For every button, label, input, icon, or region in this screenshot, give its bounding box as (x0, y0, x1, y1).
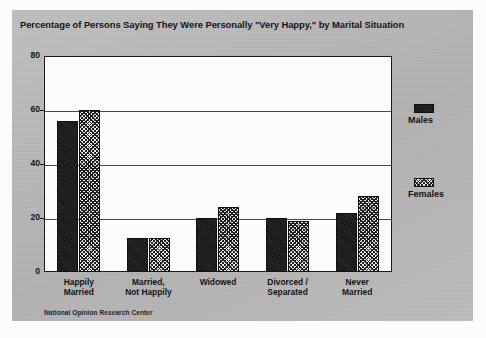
y-axis-tick-label: 40 (10, 159, 40, 168)
bar-males (196, 218, 217, 272)
page-title: Percentage of Persons Saying They Were P… (20, 19, 460, 30)
legend-swatch-icon (414, 178, 434, 187)
bar-group (183, 56, 253, 272)
x-axis-label-line: Never (310, 277, 404, 287)
bar-group (322, 56, 392, 272)
bar-males (127, 238, 148, 272)
x-axis-label-line: Not Happily (102, 287, 196, 297)
bars-layer (44, 56, 392, 272)
legend-label: Males (408, 115, 472, 125)
y-axis-tick-label: 60 (10, 105, 40, 114)
bar-females (149, 238, 170, 272)
legend-entry-females[interactable]: Females (408, 178, 472, 199)
y-axis-tick-label: 0 (10, 267, 40, 276)
bar-females (218, 207, 239, 272)
x-axis-labels: HappilyMarriedMarried,Not HappilyWidowed… (44, 272, 392, 302)
y-axis-labels: 806040200 (8, 56, 40, 272)
bar-females (79, 110, 100, 272)
bar-females (358, 196, 379, 272)
bar-males (336, 213, 357, 272)
bar-group (114, 56, 184, 272)
chart-figure: Percentage of Persons Saying They Were P… (0, 0, 486, 338)
bar-females (288, 221, 309, 272)
x-axis-label-line: Married (310, 287, 404, 297)
legend-entry-males[interactable]: Males (408, 104, 472, 125)
x-axis-category-label: NeverMarried (310, 277, 404, 297)
y-axis-tick-label: 20 (10, 213, 40, 222)
legend-label: Females (408, 189, 472, 199)
source-note: National Opinion Research Center (44, 309, 153, 316)
bar-group (44, 56, 114, 272)
bar-males (57, 121, 78, 272)
legend-swatch-icon (414, 104, 434, 113)
bar-group (253, 56, 323, 272)
y-axis-tick-label: 80 (10, 51, 40, 60)
bar-males (266, 218, 287, 272)
